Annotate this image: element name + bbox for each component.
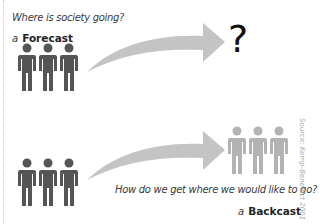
unknown-future-question-mark: ? xyxy=(228,20,248,58)
person-icon xyxy=(249,126,267,174)
person-icon xyxy=(270,126,288,174)
person-icon xyxy=(60,43,78,91)
forecast-arrow-icon xyxy=(85,20,235,75)
backcast-article: a xyxy=(238,206,244,217)
source-citation: Source: Kemp-Benedict 2001 xyxy=(298,118,306,220)
person-icon xyxy=(39,158,57,206)
person-icon xyxy=(18,158,36,206)
forecast-people-group xyxy=(18,43,78,91)
left-dotted-border xyxy=(3,0,4,224)
person-icon xyxy=(228,126,246,174)
backcast-label: aBackcast xyxy=(238,200,301,219)
person-icon xyxy=(39,43,57,91)
backcast-arrow-icon xyxy=(85,128,235,183)
backcast-question: How do we get where we would like to go? xyxy=(115,184,317,195)
person-icon xyxy=(18,43,36,91)
person-icon xyxy=(60,158,78,206)
backcast-goal-people-group xyxy=(228,126,288,174)
backcast-word: Backcast xyxy=(248,205,301,217)
backcast-start-people-group xyxy=(18,158,78,206)
